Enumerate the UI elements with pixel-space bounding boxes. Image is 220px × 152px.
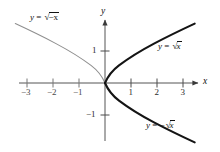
- label-sqrt-x: y = √x: [158, 41, 182, 51]
- label-sqrt-x-lhs: y: [158, 41, 162, 51]
- x-tick-label-neg2: −2: [47, 88, 57, 97]
- label-neg-sqrt-x: y = −√x: [146, 120, 175, 130]
- label-neg-sqrt-x-lhs: y: [146, 120, 150, 130]
- label-sqrt-neg-x-equals: =: [36, 12, 41, 22]
- label-neg-sqrt-x-equals: =: [152, 120, 157, 130]
- plot-canvas: [0, 0, 220, 152]
- label-neg-sqrt-x-radicand: x: [170, 120, 175, 130]
- label-sqrt-neg-x-radical: √−x: [44, 12, 60, 22]
- y-axis-label: y: [101, 7, 105, 17]
- y-tick-label-neg1: −1: [86, 110, 96, 119]
- label-sqrt-x-equals: =: [164, 41, 169, 51]
- label-sqrt-x-radical: √x: [172, 41, 182, 51]
- label-sqrt-neg-x-radicand: −x: [49, 12, 60, 22]
- label-sqrt-neg-x-lhs: y: [30, 12, 34, 22]
- label-sqrt-x-radicand: x: [177, 41, 182, 51]
- x-tick-label-neg1: −1: [73, 88, 83, 97]
- label-sqrt-neg-x: y = √−x: [30, 12, 59, 22]
- figure-sqrt-plot: −3 −2 −1 1 2 3 1 −1 y x y = √−x y = √x y…: [0, 0, 220, 152]
- x-tick-label-2: 2: [155, 88, 160, 97]
- x-tick-label-neg3: −3: [21, 88, 31, 97]
- x-axis-label: x: [203, 77, 207, 87]
- curve-sqrt-x: [105, 24, 195, 83]
- label-neg-sqrt-x-radical: √x: [165, 120, 175, 130]
- x-tick-label-1: 1: [129, 88, 134, 97]
- x-tick-label-3: 3: [181, 88, 186, 97]
- y-tick-label-1: 1: [92, 46, 97, 55]
